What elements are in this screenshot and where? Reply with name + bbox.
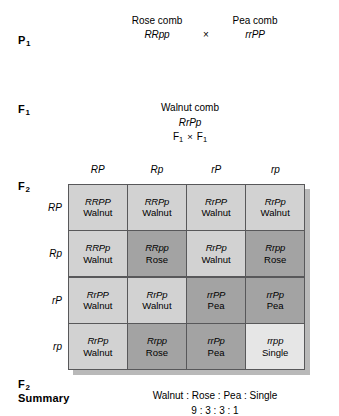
p1-parent1-genotype: RRpp	[120, 28, 194, 42]
f2-summary-numeric-ratio: 9 : 3 : 3 : 1	[95, 403, 335, 416]
punnett-cell-r4c1: RrPp Walnut	[69, 324, 127, 369]
cell-phenotype: Walnut	[201, 254, 230, 266]
cell-genotype: RrPP	[205, 196, 227, 208]
punnett-cell-r2c3: RrPp Walnut	[187, 231, 245, 276]
punnett-cell-r1c4: RrPp Walnut	[246, 185, 304, 230]
punnett-cell-r1c1: RRPP Walnut	[69, 185, 127, 230]
cell-genotype: RRPp	[145, 196, 170, 208]
f1-selfcross-right-label: F	[197, 131, 203, 142]
f1-generation-label: F1	[18, 103, 30, 117]
punnett-cell-r3c4: rrPp Pea	[246, 278, 304, 323]
f1-block: Walnut comb RrPp F1×F1	[120, 101, 260, 146]
f2-summary-label-subscript: 2	[25, 383, 30, 392]
p1-label-text: P	[18, 34, 26, 46]
cell-phenotype: Walnut	[261, 207, 290, 219]
row-header-gamete-3: rP	[22, 277, 64, 324]
cell-phenotype: Pea	[208, 300, 225, 312]
punnett-cell-r1c3: RrPP Walnut	[187, 185, 245, 230]
cell-phenotype: Rose	[264, 254, 286, 266]
cell-genotype: rrpp	[267, 335, 283, 347]
cell-genotype: RRPP	[85, 196, 111, 208]
punnett-cell-r4c2: Rrpp Rose	[128, 324, 186, 369]
p1-parent2-genotype: rrPP	[218, 28, 292, 42]
cell-genotype: rrPp	[207, 335, 224, 347]
f1-genotype: RrPp	[120, 116, 260, 131]
cell-genotype: RRPp	[86, 242, 111, 254]
cell-phenotype: Single	[262, 347, 288, 359]
row-header-gamete-2: Rp	[22, 231, 64, 278]
cell-phenotype: Walnut	[83, 347, 112, 359]
f1-selfcross-left-subscript: 1	[179, 135, 183, 144]
cell-phenotype: Walnut	[142, 207, 171, 219]
column-header-gamete-2: Rp	[127, 164, 186, 175]
cell-genotype: RrPP	[87, 289, 109, 301]
cell-phenotype: Pea	[267, 300, 284, 312]
cell-phenotype: Walnut	[142, 300, 171, 312]
punnett-cell-r4c4: rrpp Single	[246, 324, 304, 369]
cell-genotype: rrPP	[207, 289, 225, 301]
p1-cross-block: Rose comb Pea comb RRpp × rrPP	[120, 14, 320, 42]
punnett-cell-r3c3: rrPP Pea	[187, 278, 245, 323]
punnett-cell-r2c2: RRpp Rose	[128, 231, 186, 276]
cell-phenotype: Walnut	[201, 207, 230, 219]
punnett-cell-r2c4: Rrpp Rose	[246, 231, 304, 276]
cell-phenotype: Walnut	[83, 207, 112, 219]
punnett-cell-r4c3: rrPp Pea	[187, 324, 245, 369]
p1-phenotype-row: Rose comb Pea comb	[120, 14, 320, 28]
f1-selfcross-symbol: ×	[183, 131, 197, 142]
f2-summary-phenotype-ratio: Walnut : Rose : Pea : Single	[95, 388, 335, 403]
cell-phenotype: Walnut	[83, 300, 112, 312]
p1-genotype-row: RRpp × rrPP	[120, 28, 320, 42]
column-header-gamete-3: rP	[187, 164, 246, 175]
punnett-square-grid: RRPP Walnut RRPp Walnut RrPP Walnut RrPp…	[68, 184, 305, 370]
punnett-cell-r1c2: RRPp Walnut	[128, 185, 186, 230]
cell-phenotype: Pea	[208, 347, 225, 359]
cell-genotype: RRpp	[145, 242, 169, 254]
cell-genotype: RrPp	[147, 289, 168, 301]
f1-phenotype: Walnut comb	[120, 101, 260, 116]
row-header-gamete-1: RP	[22, 184, 64, 231]
p1-label-subscript: 1	[26, 39, 31, 48]
cell-genotype: RrPp	[206, 242, 227, 254]
p1-parent1-phenotype: Rose comb	[120, 14, 194, 28]
column-header-gamete-1: RP	[68, 164, 127, 175]
cell-genotype: rrPp	[267, 289, 284, 301]
cell-phenotype: Walnut	[83, 254, 112, 266]
f1-label-subscript: 1	[25, 108, 30, 117]
cell-genotype: Rrpp	[265, 242, 285, 254]
p1-parent2-phenotype: Pea comb	[218, 14, 292, 28]
row-header-gamete-4: rp	[22, 324, 64, 371]
f2-summary-label-text: F	[18, 378, 25, 390]
punnett-square-area: RRPP Walnut RRPp Walnut RrPP Walnut RrPp…	[68, 184, 305, 370]
p1-cross-symbol: ×	[194, 28, 218, 42]
cell-genotype: Rrpp	[147, 335, 167, 347]
punnett-cell-r3c2: RrPp Walnut	[128, 278, 186, 323]
f2-summary-label: F2 Summary	[18, 378, 70, 405]
f2-summary-label-line1: F2	[18, 378, 70, 392]
cell-genotype: RrPp	[87, 335, 108, 347]
punnett-cell-r3c1: RrPP Walnut	[69, 278, 127, 323]
f1-selfcross-right-subscript: 1	[203, 135, 207, 144]
cell-phenotype: Rose	[146, 254, 168, 266]
punnett-row-headers: RP Rp rP rp	[22, 184, 64, 370]
cell-phenotype: Rose	[146, 347, 168, 359]
f2-summary-label-line2: Summary	[18, 392, 70, 405]
punnett-cell-r2c1: RRPp Walnut	[69, 231, 127, 276]
f2-summary-block: Walnut : Rose : Pea : Single 9 : 3 : 3 :…	[95, 388, 335, 416]
punnett-column-headers: RP Rp rP rp	[68, 164, 305, 175]
column-header-gamete-4: rp	[246, 164, 305, 175]
p1-generation-label: P1	[18, 34, 31, 48]
cell-genotype: RrPp	[265, 196, 286, 208]
f1-selfcross-row: F1×F1	[120, 130, 260, 146]
f1-label-text: F	[18, 103, 25, 115]
